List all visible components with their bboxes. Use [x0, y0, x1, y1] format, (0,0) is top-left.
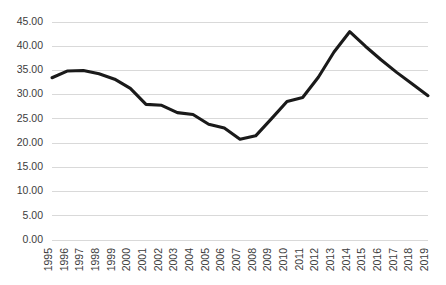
x-axis-tick-label: 1999: [105, 248, 117, 272]
x-axis-tick-label: 2018: [402, 248, 414, 272]
x-axis-tick-label: 2000: [120, 248, 132, 272]
x-axis-tick-label: 2005: [199, 248, 211, 272]
x-axis-tick-label: 1995: [42, 248, 54, 272]
y-axis-tick-label: 15.00: [17, 160, 43, 172]
x-axis-tick-label: 2019: [418, 248, 430, 272]
x-axis-tick-label: 2004: [183, 248, 195, 272]
y-axis-tick-label: 35.00: [17, 63, 43, 75]
y-axis-tick-label: 10.00: [17, 184, 43, 196]
x-axis-tick-label: 2009: [261, 248, 273, 272]
chart-canvas: 0.005.0010.0015.0020.0025.0030.0035.0040…: [0, 0, 446, 285]
x-axis-tick-label: 2014: [340, 248, 352, 272]
y-axis-tick-label: 25.00: [17, 112, 43, 124]
line-chart: 0.005.0010.0015.0020.0025.0030.0035.0040…: [0, 0, 446, 285]
data-line: [52, 32, 428, 140]
x-axis-tick-label: 2013: [324, 248, 336, 272]
x-axis-tick-label: 2007: [230, 248, 242, 272]
y-axis-tick-label: 20.00: [17, 136, 43, 148]
y-axis-tick-label: 5.00: [23, 209, 44, 221]
x-axis-tick-labels: 1995199619971998199920002001200220032004…: [42, 248, 430, 272]
y-axis-tick-label: 30.00: [17, 87, 43, 99]
x-axis-tick-label: 2012: [308, 248, 320, 272]
x-axis-tick-label: 2010: [277, 248, 289, 272]
x-axis-tick-label: 2006: [214, 248, 226, 272]
x-axis-tick-label: 2003: [167, 248, 179, 272]
y-axis-tick-label: 45.00: [17, 15, 43, 27]
x-axis-tick-label: 2016: [371, 248, 383, 272]
y-axis-tick-label: 0.00: [23, 233, 44, 245]
x-axis-tick-label: 2011: [293, 248, 305, 271]
gridlines: [52, 22, 428, 240]
x-axis-tick-label: 2002: [152, 248, 164, 272]
x-axis-tick-label: 2001: [136, 248, 148, 272]
x-axis-tick-label: 2017: [387, 248, 399, 272]
data-series-group: [52, 32, 428, 140]
x-axis-tick-label: 1997: [73, 248, 85, 272]
x-axis-tick-label: 1996: [58, 248, 70, 272]
y-axis-tick-label: 40.00: [17, 39, 43, 51]
x-axis-tick-label: 1998: [89, 248, 101, 272]
y-axis-tick-labels: 0.005.0010.0015.0020.0025.0030.0035.0040…: [17, 15, 43, 245]
x-axis-tick-label: 2015: [355, 248, 367, 272]
x-axis-tick-label: 2008: [246, 248, 258, 272]
